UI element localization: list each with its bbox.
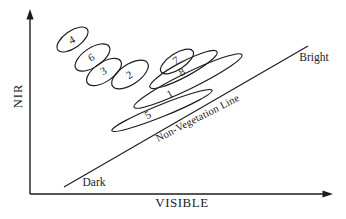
class-number-4: 4 — [66, 33, 77, 46]
class-number-3: 3 — [98, 64, 109, 77]
class-number-1: 1 — [164, 87, 175, 100]
class-number-5: 5 — [142, 108, 153, 121]
bright-label: Bright — [299, 51, 329, 64]
diagram-svg: 46327815 NIR VISIBLE Dark Bright Non-Veg… — [0, 0, 346, 219]
y-axis — [26, 9, 33, 194]
x-axis-title: VISIBLE — [155, 195, 208, 210]
nir-visible-diagram: 46327815 NIR VISIBLE Dark Bright Non-Veg… — [0, 0, 346, 219]
x-axis-arrow-icon — [323, 190, 334, 197]
dark-label: Dark — [83, 176, 106, 188]
y-axis-arrow-icon — [26, 9, 33, 20]
class-ellipse-layer: 46327815 — [53, 22, 246, 136]
class-number-2: 2 — [124, 68, 135, 81]
y-axis-title: NIR — [11, 84, 25, 109]
class-number-6: 6 — [86, 50, 97, 63]
